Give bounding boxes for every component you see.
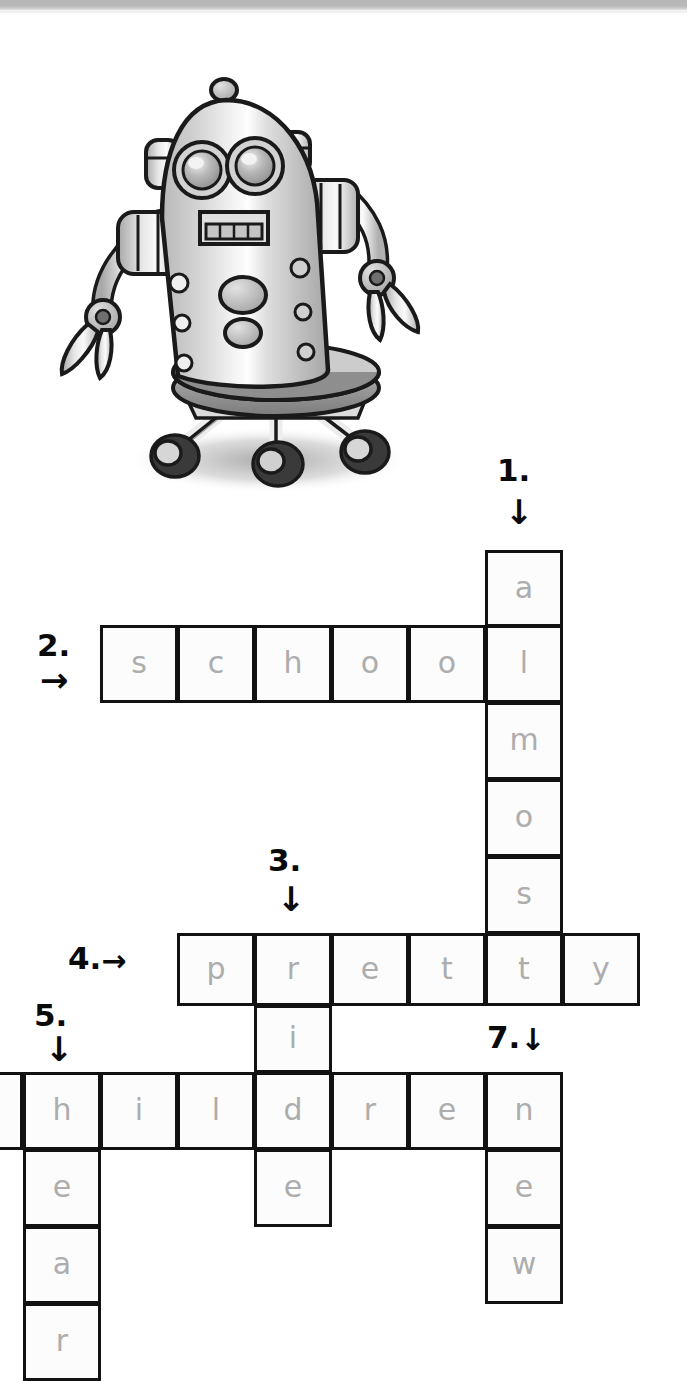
crossword-cell-letter: l bbox=[520, 648, 528, 678]
arrow-right-icon: → bbox=[101, 943, 126, 978]
crossword-cell[interactable]: d bbox=[254, 1072, 332, 1150]
crossword-cell[interactable]: t bbox=[408, 933, 486, 1006]
clue-number-5-down: 5. bbox=[34, 1000, 67, 1031]
clue-number-2-across: 2. bbox=[37, 630, 70, 661]
clue-number-text: 4. bbox=[68, 940, 101, 976]
crossword-cell[interactable]: e bbox=[408, 1072, 486, 1150]
crossword-cell[interactable]: e bbox=[331, 933, 409, 1006]
crossword-cell[interactable]: e bbox=[485, 1149, 563, 1227]
crossword-cell[interactable]: s bbox=[100, 625, 178, 703]
clue-number-text: 2. bbox=[37, 627, 70, 663]
crossword-cell[interactable]: a bbox=[485, 550, 563, 627]
crossword-cell-letter: h bbox=[283, 648, 302, 678]
crossword-cell[interactable]: n bbox=[485, 1072, 563, 1150]
crossword-cell[interactable]: i bbox=[100, 1072, 178, 1150]
crossword-cell-letter: p bbox=[206, 954, 225, 984]
crossword-cell[interactable]: o bbox=[485, 779, 563, 857]
crossword-cell[interactable]: h bbox=[23, 1072, 101, 1150]
crossword-cell[interactable]: a bbox=[23, 1226, 101, 1304]
clue-number-text: 5. bbox=[34, 997, 67, 1033]
crossword-cell[interactable]: t bbox=[485, 933, 563, 1006]
crossword-cell[interactable]: l bbox=[177, 1072, 255, 1150]
crossword-cell[interactable]: s bbox=[485, 856, 563, 934]
crossword-cell[interactable]: l bbox=[485, 625, 563, 703]
crossword-cell-letter: i bbox=[135, 1095, 143, 1125]
crossword-cell-letter: c bbox=[208, 648, 225, 678]
crossword-cell-letter: s bbox=[131, 648, 147, 678]
arrow-right-icon: → bbox=[40, 663, 69, 697]
crossword-cell[interactable]: p bbox=[177, 933, 255, 1006]
crossword-cell[interactable]: h bbox=[254, 625, 332, 703]
clue-number-3-down: 3. bbox=[268, 845, 301, 876]
clue-number-text: 1. bbox=[497, 452, 530, 488]
crossword-cell[interactable]: w bbox=[485, 1226, 563, 1304]
crossword-cell-letter: r bbox=[287, 954, 299, 984]
crossword-cell[interactable]: m bbox=[485, 702, 563, 780]
arrow-down-icon: ↓ bbox=[277, 882, 306, 916]
crossword-cell[interactable]: y bbox=[562, 933, 640, 1006]
crossword-cell-letter: e bbox=[438, 1095, 456, 1125]
crossword-cell-letter: o bbox=[361, 648, 379, 678]
arrow-down-icon: ↓ bbox=[45, 1032, 74, 1066]
crossword-cell-letter: r bbox=[56, 1326, 68, 1356]
clue-number-1-down: 1. bbox=[497, 455, 530, 486]
crossword-cell-letter: i bbox=[289, 1023, 297, 1053]
arrow-down-icon: ↓ bbox=[505, 495, 534, 529]
crossword-cell[interactable]: c bbox=[177, 625, 255, 703]
crossword-cell-letter: o bbox=[438, 648, 456, 678]
crossword-cell[interactable]: o bbox=[331, 625, 409, 703]
clue-number-text: 3. bbox=[268, 842, 301, 878]
crossword-cell-letter: t bbox=[518, 954, 530, 984]
arrow-down-icon: ↓ bbox=[520, 1022, 545, 1057]
crossword-cell-letter: e bbox=[361, 954, 379, 984]
crossword-cell-letter: o bbox=[515, 802, 533, 832]
crossword-cell-letter: h bbox=[52, 1095, 71, 1125]
crossword-cell-letter: d bbox=[283, 1095, 302, 1125]
crossword-cell[interactable]: r bbox=[331, 1072, 409, 1150]
clue-number-text: 7. bbox=[487, 1019, 520, 1055]
crossword-cell[interactable]: r bbox=[254, 933, 332, 1006]
clue-number-7-down: 7.↓ bbox=[487, 1022, 546, 1053]
crossword-cell-letter: e bbox=[53, 1172, 71, 1202]
crossword-cell-letter: e bbox=[515, 1172, 533, 1202]
crossword-cell[interactable] bbox=[0, 1072, 23, 1150]
crossword-cell-letter: n bbox=[514, 1095, 533, 1125]
crossword-cell-letter: y bbox=[592, 954, 610, 984]
crossword-cell[interactable]: e bbox=[254, 1149, 332, 1227]
crossword-cell-letter: t bbox=[441, 954, 453, 984]
clue-number-4-across: 4.→ bbox=[68, 943, 127, 974]
crossword-cell-letter: l bbox=[212, 1095, 220, 1125]
crossword-cell[interactable]: e bbox=[23, 1149, 101, 1227]
crossword-cell-letter: a bbox=[53, 1249, 71, 1279]
crossword-cell-letter: e bbox=[284, 1172, 302, 1202]
crossword-cell[interactable]: o bbox=[408, 625, 486, 703]
crossword-cell-letter: r bbox=[364, 1095, 376, 1125]
crossword-cell[interactable]: i bbox=[254, 1005, 332, 1073]
crossword-cell-letter: w bbox=[512, 1249, 537, 1279]
crossword-cell-letter: m bbox=[509, 725, 538, 755]
crossword-cell-letter: a bbox=[515, 573, 533, 603]
crossword-cell-letter: s bbox=[516, 879, 532, 909]
crossword-cell[interactable]: r bbox=[23, 1303, 101, 1381]
